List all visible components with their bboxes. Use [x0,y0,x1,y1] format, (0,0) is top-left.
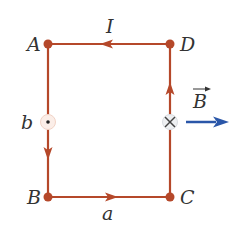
vertex-D [166,40,175,49]
label-side-a: a [102,202,113,224]
into-page-icon [163,115,178,130]
label-B: B [26,186,41,208]
current-loop-diagram: A D B C I b a B [0,0,232,233]
label-C: C [180,186,195,208]
vertex-dots [44,40,175,202]
label-current-I: I [105,15,114,37]
vertex-A [44,40,53,49]
label-D: D [179,33,195,55]
out-of-page-icon [41,115,56,130]
vertex-C [166,193,175,202]
field-arrow-icon [186,117,229,128]
label-side-b: b [21,111,33,133]
vertex-B [44,193,53,202]
wire-loop [48,44,170,197]
label-field-B: B [192,90,207,112]
current-arrows [44,40,175,202]
label-A: A [25,33,41,55]
